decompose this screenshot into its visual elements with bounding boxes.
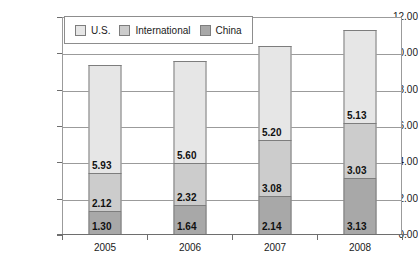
bar-segment[interactable]: 5.60 bbox=[173, 61, 206, 163]
bar-value-label: 2.32 bbox=[177, 192, 196, 203]
x-tick-label: 2008 bbox=[318, 242, 403, 253]
bar-value-label: 5.60 bbox=[177, 150, 196, 161]
legend-swatch-us bbox=[75, 25, 86, 36]
bar-segment[interactable]: 1.64 bbox=[173, 205, 206, 235]
bar-stack[interactable]: 5.602.321.64 bbox=[173, 61, 206, 235]
bar-segment[interactable]: 5.20 bbox=[258, 46, 291, 140]
legend-item-us: U.S. bbox=[75, 25, 110, 36]
bar-group[interactable]: 5.932.121.30 bbox=[62, 17, 147, 235]
bar-value-label: 3.13 bbox=[347, 221, 366, 232]
chart-legend: U.S. International China bbox=[64, 16, 253, 44]
bar-segment[interactable]: 2.12 bbox=[88, 173, 121, 212]
bar-stack[interactable]: 5.133.033.13 bbox=[343, 30, 376, 235]
x-tick-label: 2007 bbox=[233, 242, 318, 253]
bar-segment[interactable]: 3.03 bbox=[343, 123, 376, 178]
bar-value-label: 3.08 bbox=[262, 183, 281, 194]
bar-segment[interactable]: 3.08 bbox=[258, 140, 291, 196]
x-tick-mark bbox=[62, 235, 63, 240]
bar-segment[interactable]: 5.93 bbox=[88, 65, 121, 173]
bar-group[interactable]: 5.133.033.13 bbox=[317, 17, 402, 235]
bar-value-label: 3.03 bbox=[347, 165, 366, 176]
bar-value-label: 2.12 bbox=[92, 198, 111, 209]
legend-item-international: International bbox=[119, 25, 190, 36]
bar-stack[interactable]: 5.203.082.14 bbox=[258, 46, 291, 235]
legend-swatch-international bbox=[119, 25, 130, 36]
bar-segment[interactable]: 5.13 bbox=[343, 30, 376, 123]
legend-label-us: U.S. bbox=[91, 25, 110, 36]
bar-value-label: 5.20 bbox=[262, 127, 281, 138]
legend-item-china: China bbox=[200, 25, 242, 36]
bar-value-label: 1.30 bbox=[92, 221, 111, 232]
bars-layer: 5.932.121.305.602.321.645.203.082.145.13… bbox=[62, 17, 402, 235]
bar-value-label: 1.64 bbox=[177, 221, 196, 232]
x-tick-mark bbox=[147, 235, 148, 240]
bar-segment[interactable]: 2.32 bbox=[173, 163, 206, 205]
bar-segment[interactable]: 2.14 bbox=[258, 196, 291, 235]
stacked-bar-chart: Sales (in $ billions) 0.002.004.006.008.… bbox=[0, 0, 418, 268]
x-tick-label: 2005 bbox=[63, 242, 148, 253]
bar-value-label: 5.13 bbox=[347, 110, 366, 121]
bar-group[interactable]: 5.602.321.64 bbox=[147, 17, 232, 235]
bar-segment[interactable]: 3.13 bbox=[343, 178, 376, 235]
x-tick-mark bbox=[402, 235, 403, 240]
x-tick-mark bbox=[232, 235, 233, 240]
bar-value-label: 2.14 bbox=[262, 221, 281, 232]
legend-swatch-china bbox=[200, 25, 211, 36]
x-tick-mark bbox=[317, 235, 318, 240]
legend-label-international: International bbox=[135, 25, 190, 36]
bar-group[interactable]: 5.203.082.14 bbox=[232, 17, 317, 235]
x-tick-label: 2006 bbox=[148, 242, 233, 253]
legend-label-china: China bbox=[216, 25, 242, 36]
bar-stack[interactable]: 5.932.121.30 bbox=[88, 65, 121, 235]
bar-value-label: 5.93 bbox=[92, 160, 111, 171]
bar-segment[interactable]: 1.30 bbox=[88, 211, 121, 235]
